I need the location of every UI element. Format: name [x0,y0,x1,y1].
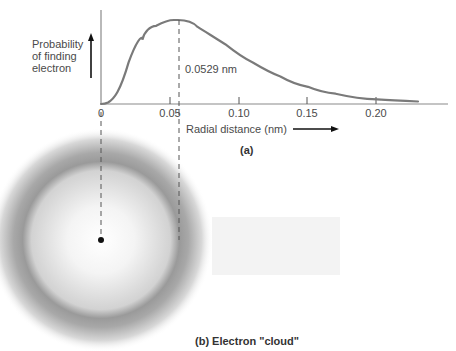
y-arrow-icon [88,33,94,78]
y-label-line-2: of finding [32,50,83,62]
probability-curve [101,20,418,104]
panel-a-caption: (a) [240,144,253,156]
x-axis-label: Radial distance (nm) [186,123,287,135]
y-label-line-3: electron [32,62,83,74]
x-tick-0.15: 0.15 [296,107,317,119]
x-tick-0.20: 0.20 [365,107,386,119]
x-tick-0.10: 0.10 [228,107,249,119]
x-tick-0: 0 [98,107,104,119]
x-tick-0.05: 0.05 [159,107,180,119]
y-label-line-1: Probability [32,38,83,50]
panel-b-caption: (b) Electron "cloud" [195,335,299,347]
x-arrow-icon [293,126,339,132]
y-axis-label: Probability of finding electron [32,38,83,74]
x-axis-ticks [170,97,376,104]
electron-cloud [0,128,213,351]
faint-background-rect [212,217,340,275]
peak-label: 0.0529 nm [185,63,237,75]
nucleus-dot [98,237,104,243]
